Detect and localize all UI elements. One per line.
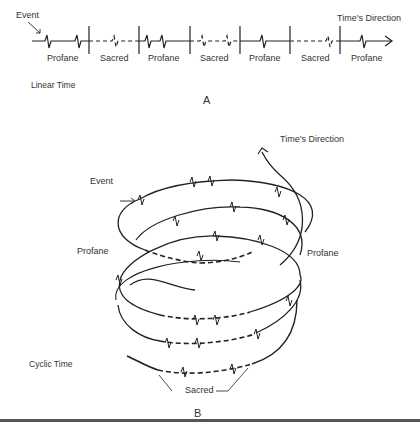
cyclic-time-caption: Cyclic Time xyxy=(29,359,73,369)
panel-b-letter: B xyxy=(194,407,201,419)
segment-label: Sacred xyxy=(301,53,330,63)
cyclic-time-spiral xyxy=(116,148,313,391)
segment-label: Sacred xyxy=(100,53,129,63)
segment-label: Sacred xyxy=(200,53,229,63)
profane-label-left: Profane xyxy=(77,246,109,256)
segment-label: Profane xyxy=(47,53,79,63)
panel-a-letter: A xyxy=(203,94,211,106)
profane-label-right: Profane xyxy=(307,248,339,258)
linear-time-diagram xyxy=(28,22,392,54)
event-label-b: Event xyxy=(90,176,114,186)
linear-time-caption: Linear Time xyxy=(31,80,76,90)
event-label: Event xyxy=(16,10,40,20)
segment-label: Profane xyxy=(351,53,383,63)
time-diagram: Event Time's Direction Profane Sacred Pr… xyxy=(0,0,420,422)
segment-label: Profane xyxy=(249,53,281,63)
sacred-label: Sacred xyxy=(185,385,214,395)
direction-label-a: Time's Direction xyxy=(337,13,401,23)
segment-label: Profane xyxy=(148,53,180,63)
direction-label-b: Time's Direction xyxy=(280,134,344,144)
